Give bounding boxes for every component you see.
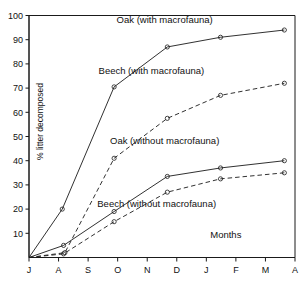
x-tick-label: O bbox=[114, 265, 121, 275]
data-point-marker bbox=[165, 116, 169, 120]
data-point-marker bbox=[218, 93, 222, 97]
x-tick-label: M bbox=[262, 265, 270, 275]
series-annotation-1: Beech (with macrofauna) bbox=[99, 65, 205, 76]
y-tick-label: 30 bbox=[13, 180, 23, 190]
series-line-3 bbox=[29, 173, 284, 258]
y-tick-label: 10 bbox=[13, 229, 23, 239]
data-point-marker bbox=[112, 220, 116, 224]
series-annotation-2: Oak (without macrofauna) bbox=[110, 135, 219, 146]
series-line-1 bbox=[29, 83, 284, 257]
y-tick-label: 80 bbox=[13, 59, 23, 69]
y-tick-label: 50 bbox=[13, 132, 23, 142]
x-tick-label: S bbox=[85, 265, 91, 275]
x-tick-label: J bbox=[204, 265, 209, 275]
y-tick-label: 90 bbox=[13, 35, 23, 45]
y-tick-label: 40 bbox=[13, 156, 23, 166]
x-tick-label: N bbox=[144, 265, 151, 275]
y-tick-label: 70 bbox=[13, 83, 23, 93]
x-tick-label: A bbox=[56, 265, 62, 275]
y-tick-label: 100 bbox=[8, 11, 23, 21]
series-annotation-0: Oak (with macrofauna) bbox=[117, 14, 213, 25]
x-tick-label: J bbox=[27, 265, 32, 275]
x-axis-label: Months bbox=[210, 229, 241, 240]
y-tick-label: 20 bbox=[13, 204, 23, 214]
x-axis-ticks: JASONDJFMA bbox=[27, 258, 298, 275]
y-axis-ticks: 102030405060708090100 bbox=[8, 11, 29, 239]
litter-decomposition-line-chart: 102030405060708090100 JASONDJFMA Oak (wi… bbox=[0, 0, 306, 290]
series-line-2 bbox=[29, 161, 284, 258]
x-tick-label: A bbox=[292, 265, 298, 275]
data-point-marker bbox=[165, 190, 169, 194]
y-axis-label: % litter decomposed bbox=[35, 83, 45, 160]
chart-figure: 102030405060708090100 JASONDJFMA Oak (wi… bbox=[0, 0, 306, 290]
x-tick-label: D bbox=[174, 265, 181, 275]
series-annotation-3: Beech (without macrofauna) bbox=[97, 198, 216, 209]
y-tick-label: 60 bbox=[13, 108, 23, 118]
x-tick-label: F bbox=[233, 265, 239, 275]
